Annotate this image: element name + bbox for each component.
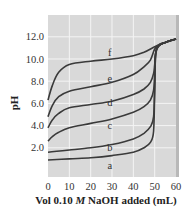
y-tick-label: 4.0	[31, 120, 44, 131]
y-tick-label: 2.0	[31, 142, 44, 153]
curve-label-f: f	[108, 47, 112, 58]
plot-area-shadow	[176, 15, 179, 177]
y-tick-label: 12.0	[26, 31, 44, 42]
curve-label-b: b	[107, 142, 112, 153]
x-tick-label: 0	[45, 181, 50, 192]
curve-label-a: a	[108, 160, 113, 171]
x-tick-labels: 0102030405060	[45, 181, 181, 192]
x-tick-label: 10	[64, 181, 75, 192]
y-tick-label: 6.0	[31, 98, 44, 109]
x-axis-title: Vol 0.10 M NaOH added (mL)	[35, 194, 177, 207]
x-tick-label: 30	[107, 181, 118, 192]
curve-label-e: e	[108, 73, 113, 84]
y-tick-label: 8.0	[31, 76, 44, 87]
y-axis-title: pH	[8, 95, 20, 110]
curve-label-d: d	[107, 97, 113, 108]
titration-chart: abcdef 2.04.06.08.010.012.0 010203040506…	[0, 0, 190, 209]
x-tick-label: 60	[171, 181, 182, 192]
y-tick-label: 10.0	[26, 54, 44, 65]
x-tick-label: 20	[85, 181, 96, 192]
x-tick-label: 40	[128, 181, 139, 192]
y-tick-labels: 2.04.06.08.010.012.0	[26, 31, 44, 153]
x-tick-label: 50	[149, 181, 160, 192]
curve-label-c: c	[108, 120, 113, 131]
